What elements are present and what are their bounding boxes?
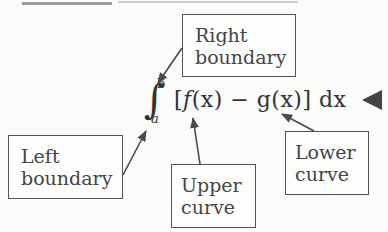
- lower-limit: a: [151, 111, 159, 126]
- differential: dx: [312, 87, 347, 112]
- right-boundary-label-line1: Right: [195, 24, 295, 46]
- upper-curve-label-line2: curve: [181, 196, 255, 218]
- upper-function: f: [183, 87, 192, 112]
- cutoff-heading-text-faint: [118, 0, 298, 3]
- cutoff-heading-text: [22, 0, 112, 5]
- upper-curve-label-line1: Upper: [181, 174, 255, 196]
- lower-curve-label-box: Lower curve: [285, 131, 369, 195]
- upper-limit: b: [157, 76, 165, 91]
- lower-function: g: [257, 87, 272, 112]
- right-boundary-label-line2: boundary: [195, 46, 295, 68]
- upper-curve-label-box: Upper curve: [171, 164, 256, 228]
- lower-curve-label-line1: Lower: [295, 141, 368, 163]
- integrand-expression: [f(x) − g(x)] dx: [174, 87, 347, 112]
- left-boundary-label-line1: Left: [21, 145, 122, 167]
- close-bracket: ]: [302, 87, 311, 112]
- integral-formula: ∫ b a [f(x) − g(x)] dx: [140, 78, 350, 128]
- open-bracket: [: [174, 87, 183, 112]
- left-boundary-label-line2: boundary: [21, 167, 122, 189]
- minus-operator: −: [223, 87, 257, 112]
- lower-function-arg: (x): [271, 87, 302, 112]
- lower-curve-label-line2: curve: [295, 163, 368, 185]
- left-boundary-label-box: Left boundary: [8, 135, 123, 199]
- upper-function-arg: (x): [192, 87, 223, 112]
- pointer-triangle-icon: [362, 90, 382, 110]
- left-boundary-arrow: [123, 131, 146, 175]
- right-boundary-label-box: Right boundary: [182, 14, 296, 77]
